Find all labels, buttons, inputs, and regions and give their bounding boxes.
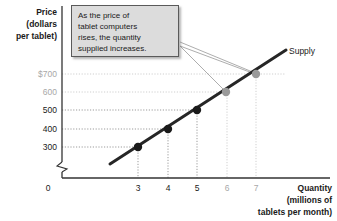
x-axis-title-line-1: Quantity — [298, 183, 333, 193]
x-tick-label-5: 5 — [195, 183, 200, 193]
leader-line-to-q7 — [180, 46, 255, 74]
x-tick-label-7: 7 — [254, 183, 259, 193]
y-tick-label-700: $700 — [38, 69, 57, 79]
y-axis-title: Price (dollars per tablet) — [16, 7, 57, 41]
x-axis-title: Quantity (millions of tablets per month) — [258, 183, 332, 217]
x-tick-label-6: 6 — [225, 183, 230, 193]
y-tick-labels: $700 600 500 400 300 — [38, 69, 57, 152]
y-tick-label-400: 400 — [43, 124, 57, 134]
x-axis-title-line-3: tablets per month) — [258, 207, 332, 217]
callout-leader-lines — [180, 42, 255, 92]
x-tick-label-0: 0 — [46, 183, 51, 193]
annotation-line-2: tablet computers — [78, 21, 173, 32]
y-tick-label-500: 500 — [43, 105, 57, 115]
data-point-q5 — [193, 106, 201, 114]
axis-break-icon — [57, 162, 67, 172]
y-tick-label-300: 300 — [43, 142, 57, 152]
y-tick-label-600: 600 — [43, 87, 57, 97]
data-point-q7 — [252, 70, 260, 78]
y-axis-title-line-3: per tablet) — [16, 31, 57, 41]
vertical-gridlines — [138, 74, 256, 178]
x-tick-labels: 0 3 4 5 6 7 — [46, 183, 259, 193]
supply-curve-label: Supply — [289, 46, 316, 56]
x-tick-label-3: 3 — [136, 183, 141, 193]
annotation-line-3: rises, the quantity — [78, 32, 173, 43]
y-axis-title-line-1: Price — [36, 7, 57, 17]
leader-line-to-q6 — [180, 46, 226, 92]
data-point-q4 — [164, 125, 172, 133]
data-point-q3 — [134, 143, 142, 151]
x-axis-title-line-2: (millions of — [287, 195, 333, 205]
x-tick-label-4: 4 — [166, 183, 171, 193]
horizontal-gridlines — [62, 74, 286, 147]
annotation-line-4: supplied increases. — [78, 43, 173, 54]
annotation-callout: As the price of tablet computers rises, … — [71, 5, 179, 57]
annotation-line-1: As the price of — [78, 10, 173, 21]
y-axis-title-line-2: (dollars — [26, 19, 57, 29]
supply-curve-chart: $700 600 500 400 300 0 3 4 5 6 7 Price (… — [0, 0, 337, 221]
data-point-q6 — [222, 88, 230, 96]
